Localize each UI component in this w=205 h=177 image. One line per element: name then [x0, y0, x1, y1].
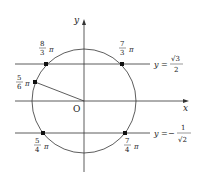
- unit-circle-diagram: y x O 8 3 π 7 3 π 5 6 π 5 4 π 7 4 π y = …: [0, 0, 205, 177]
- svg-text:5: 5: [35, 137, 39, 145]
- svg-text:√3: √3: [171, 55, 180, 63]
- svg-text:4: 4: [35, 146, 40, 154]
- svg-text:−: −: [168, 129, 175, 138]
- label-y-neg-1-over-sqrt2: y = − 1 √2: [153, 124, 191, 144]
- point-7-3-pi: [120, 62, 124, 66]
- svg-text:π: π: [128, 46, 134, 54]
- svg-text:√2: √2: [178, 136, 187, 144]
- svg-text:π: π: [43, 143, 49, 151]
- svg-text:y: y: [153, 60, 159, 69]
- radius-5-6-pi: [35, 82, 84, 101]
- svg-text:2: 2: [174, 66, 178, 74]
- label-7-4-pi: 7 4 π: [124, 137, 139, 154]
- svg-text:=: =: [161, 129, 168, 138]
- label-8-3-pi: 8 3 π: [39, 40, 54, 57]
- svg-text:π: π: [133, 143, 139, 151]
- y-axis-arrow-icon: [82, 19, 86, 25]
- label-y-sqrt3-over-2: y = √3 2: [153, 55, 183, 74]
- svg-text:3: 3: [40, 49, 44, 57]
- label-5-4-pi: 5 4 π: [34, 137, 49, 154]
- point-7-4-pi: [123, 131, 127, 135]
- y-axis-label: y: [73, 15, 80, 25]
- svg-text:7: 7: [125, 137, 129, 145]
- svg-text:4: 4: [125, 146, 130, 154]
- svg-text:y: y: [153, 129, 159, 138]
- svg-text:7: 7: [120, 40, 124, 48]
- svg-text:8: 8: [40, 40, 44, 48]
- svg-text:=: =: [161, 60, 168, 69]
- label-7-3-pi: 7 3 π: [119, 40, 134, 57]
- point-5-4-pi: [41, 131, 45, 135]
- svg-text:5: 5: [17, 74, 21, 82]
- point-5-6-pi: [33, 80, 37, 84]
- svg-text:1: 1: [181, 124, 185, 132]
- svg-text:6: 6: [17, 83, 22, 91]
- origin-label: O: [73, 104, 80, 114]
- x-axis-label: x: [183, 103, 188, 113]
- point-8-3-pi: [44, 62, 48, 66]
- svg-text:π: π: [48, 46, 54, 54]
- svg-text:3: 3: [120, 49, 124, 57]
- svg-text:π: π: [24, 80, 30, 88]
- label-5-6-pi: 5 6 π: [16, 74, 30, 91]
